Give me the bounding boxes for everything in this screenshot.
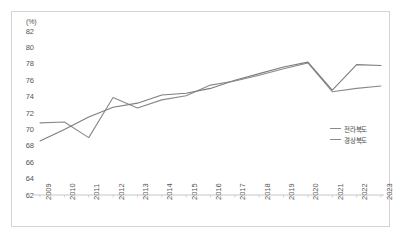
plot-area (0, 0, 401, 238)
axis-lines (34, 195, 384, 198)
chart-legend: 전라북도 경상북도 (330, 124, 392, 146)
legend-label-jeonbuk: 전라북도 (344, 124, 367, 134)
line-chart-figure: (%) 8280787674727068666462 2009201020112… (0, 0, 401, 238)
legend-item-gyeongbuk[interactable]: 경상북도 (330, 135, 392, 144)
legend-label-gyeongbuk: 경상북도 (344, 135, 367, 145)
legend-swatch-gyeongbuk (330, 139, 341, 140)
legend-swatch-jeonbuk (330, 128, 341, 129)
legend-item-jeonbuk[interactable]: 전라북도 (330, 124, 392, 133)
